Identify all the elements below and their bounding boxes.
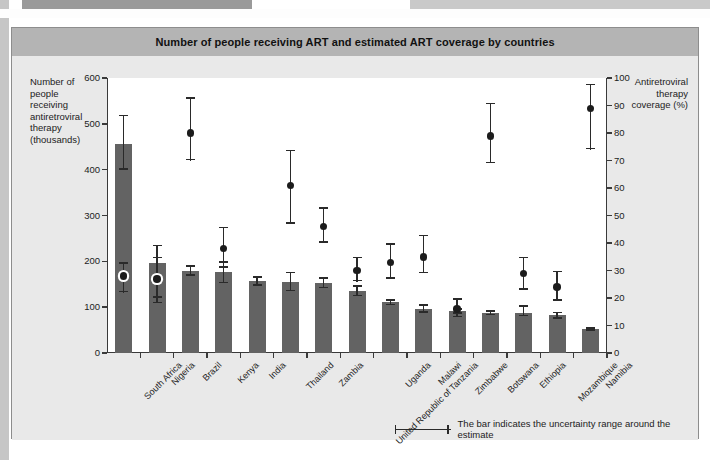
y-axis-tick-label: 100 bbox=[60, 301, 100, 312]
x-axis-tick bbox=[273, 353, 274, 358]
x-axis-tick bbox=[540, 353, 541, 358]
x-axis-tick bbox=[606, 353, 607, 358]
bar-error-cap bbox=[253, 276, 262, 278]
figure-body: Number of people receiving antiretrovira… bbox=[12, 56, 698, 440]
page-edge-top bbox=[0, 9, 710, 18]
y2-axis-tick-label: 30 bbox=[614, 265, 654, 276]
bar-thailand bbox=[282, 282, 299, 354]
x-axis-tick bbox=[173, 353, 174, 358]
x-axis-tick bbox=[340, 353, 341, 358]
bar-error-cap bbox=[419, 311, 428, 313]
y-axis-tick-label: 600 bbox=[60, 72, 100, 83]
y2-axis-tick bbox=[607, 352, 612, 353]
y-axis-tick bbox=[102, 215, 107, 216]
bar-south-africa bbox=[115, 144, 132, 353]
scan-artifact-strip-right bbox=[410, 0, 710, 9]
y2-axis-tick bbox=[607, 187, 612, 188]
bar-error-cap bbox=[219, 282, 228, 284]
y-axis-tick bbox=[102, 306, 107, 307]
y2-axis-tick-label: 60 bbox=[614, 182, 654, 193]
bar-brazil bbox=[182, 271, 199, 354]
coverage-error-cap bbox=[453, 298, 462, 300]
x-axis-tick bbox=[240, 353, 241, 358]
y2-axis-tick bbox=[607, 105, 612, 106]
coverage-error-cap bbox=[453, 316, 462, 318]
bar-error-cap bbox=[253, 284, 262, 286]
coverage-error-cap bbox=[553, 299, 562, 301]
bar-botswana bbox=[482, 313, 499, 353]
x-axis-label: Thailand bbox=[304, 360, 335, 391]
x-axis-label: Brazil bbox=[201, 360, 224, 383]
y2-axis-tick-label: 40 bbox=[614, 237, 654, 248]
chart-title-bar: Number of people receiving ART and estim… bbox=[12, 28, 698, 56]
x-axis-tick bbox=[506, 353, 507, 358]
coverage-error-cap bbox=[519, 288, 528, 290]
coverage-error-line bbox=[590, 84, 592, 150]
bar-error-cap bbox=[119, 168, 128, 170]
coverage-dot-mozambique bbox=[553, 283, 561, 291]
y-axis-tick-label: 500 bbox=[60, 118, 100, 129]
coverage-error-cap bbox=[586, 84, 595, 86]
bar-error-cap bbox=[386, 304, 395, 306]
bar-error-cap bbox=[186, 274, 195, 276]
y-axis-tick bbox=[102, 352, 107, 353]
x-axis-label: Ethiopia bbox=[537, 360, 567, 390]
y2-axis-tick bbox=[607, 77, 612, 78]
y2-axis-tick bbox=[607, 297, 612, 298]
bar-united-republic-of-tanzania bbox=[349, 291, 366, 353]
x-axis-tick bbox=[206, 353, 207, 358]
left-axis-title: Number of people receiving antiretrovira… bbox=[30, 76, 96, 145]
y2-axis-tick-label: 90 bbox=[614, 100, 654, 111]
coverage-error-cap bbox=[286, 150, 295, 152]
y2-axis-tick bbox=[607, 215, 612, 216]
chart-title: Number of people receiving ART and estim… bbox=[155, 36, 554, 48]
coverage-dot-zimbabwe bbox=[453, 305, 461, 313]
bar-error-cap bbox=[353, 285, 362, 287]
coverage-error-cap bbox=[586, 148, 595, 150]
x-axis-tick bbox=[406, 353, 407, 358]
coverage-dot-malawi bbox=[420, 253, 428, 261]
y2-axis-tick bbox=[607, 325, 612, 326]
bar-error-cap bbox=[419, 304, 428, 306]
bar-error-cap bbox=[553, 317, 562, 319]
y2-axis-tick-label: 100 bbox=[614, 72, 654, 83]
bar-error-cap bbox=[319, 287, 328, 289]
figure-frame: Number of people receiving ART and estim… bbox=[11, 27, 699, 439]
bar-error-cap bbox=[286, 290, 295, 292]
coverage-error-cap bbox=[386, 243, 395, 245]
coverage-error-cap bbox=[486, 103, 495, 105]
footnote-text: The bar indicates the uncertainty range … bbox=[458, 418, 698, 440]
y2-axis-tick-label: 0 bbox=[614, 347, 654, 358]
coverage-error-cap bbox=[319, 207, 328, 209]
x-axis-label: Uganda bbox=[404, 360, 433, 389]
y-axis-tick bbox=[102, 169, 107, 170]
bar-error-cap bbox=[519, 305, 528, 307]
x-axis-tick bbox=[140, 353, 141, 358]
coverage-error-cap bbox=[519, 257, 528, 259]
bar-india bbox=[249, 281, 266, 353]
coverage-error-cap bbox=[386, 277, 395, 279]
coverage-error-cap bbox=[486, 162, 495, 164]
bar-error-cap bbox=[319, 277, 328, 279]
bar-error-cap bbox=[586, 329, 595, 331]
bar-kenya bbox=[215, 272, 232, 353]
y-axis-tick-label: 300 bbox=[60, 210, 100, 221]
bar-error-line bbox=[290, 272, 292, 291]
y2-axis-tick-label: 70 bbox=[614, 155, 654, 166]
footnote: The bar indicates the uncertainty range … bbox=[395, 418, 698, 440]
bar-ethiopia bbox=[515, 313, 532, 353]
y2-axis-tick-label: 20 bbox=[614, 292, 654, 303]
coverage-error-cap bbox=[219, 266, 228, 268]
y2-axis-tick bbox=[607, 242, 612, 243]
page-edge-left bbox=[0, 0, 9, 460]
coverage-error-cap bbox=[219, 227, 228, 229]
coverage-dot-uganda bbox=[387, 259, 395, 267]
bar-error-cap bbox=[286, 272, 295, 274]
coverage-error-cap bbox=[153, 296, 162, 298]
coverage-dot-united-republic-of-tanzania bbox=[353, 267, 361, 275]
x-axis-tick bbox=[573, 353, 574, 358]
x-axis-tick bbox=[373, 353, 374, 358]
y-axis-tick-label: 0 bbox=[60, 347, 100, 358]
x-axis-label: Botswana bbox=[506, 360, 541, 395]
bar-error-cap bbox=[486, 310, 495, 312]
